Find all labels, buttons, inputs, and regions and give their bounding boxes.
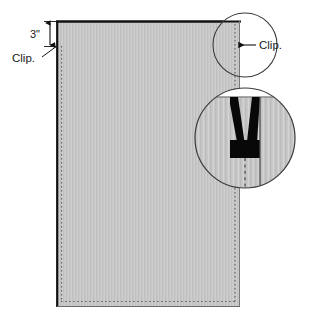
clip-right-label: Clip.	[259, 39, 282, 51]
notch-base	[230, 140, 260, 158]
diagram-root: 3" Clip. Clip.	[0, 0, 320, 322]
clip-left-label: Clip.	[12, 52, 35, 64]
fabric-clip-diagram: 3" Clip. Clip.	[0, 0, 320, 322]
dimension-label: 3"	[30, 28, 40, 40]
